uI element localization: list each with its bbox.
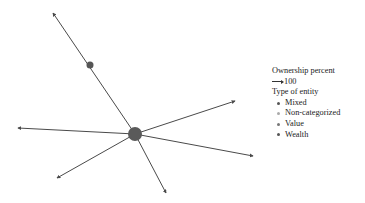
ownership-legend-value: 100 [284, 77, 296, 88]
entity-node [128, 127, 142, 141]
type-legend-title: Type of entity [272, 87, 340, 98]
ownership-edge [135, 101, 235, 134]
ownership-edge [57, 134, 135, 178]
ownership-edge [53, 13, 135, 134]
legend-item-mixed: Mixed [272, 98, 340, 109]
legend-item-label: Mixed [285, 98, 307, 109]
dot-icon [277, 123, 280, 126]
legend: Ownership percent 100 Type of entity Mix… [272, 66, 340, 140]
entity-node [87, 62, 94, 69]
legend-item-value: Value [272, 119, 340, 130]
legend-item-label: Wealth [285, 130, 308, 141]
ownership-edge [18, 128, 135, 134]
dot-icon [277, 133, 280, 136]
ownership-legend-row: 100 [272, 77, 340, 88]
dot-icon [277, 102, 280, 105]
legend-item-label: Value [285, 119, 304, 130]
legend-item-non-categorized: Non-categorized [272, 108, 340, 119]
ownership-edge [135, 134, 166, 193]
legend-item-label: Non-categorized [285, 108, 340, 119]
edges [18, 13, 253, 193]
legend-item-wealth: Wealth [272, 130, 340, 141]
dot-icon [277, 112, 280, 115]
ownership-edge [135, 134, 253, 156]
nodes [87, 62, 143, 142]
arrow-icon [272, 81, 282, 82]
ownership-legend-title: Ownership percent [272, 66, 340, 77]
